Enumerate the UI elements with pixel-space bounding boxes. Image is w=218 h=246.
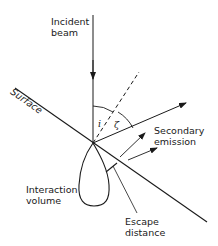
angle-i-label: i	[98, 118, 101, 129]
secondary-emission-label-line2: emission	[154, 136, 204, 147]
interaction-volume-shape	[79, 143, 109, 206]
interaction-volume-label-line1: Interaction	[26, 184, 78, 195]
angle-zeta-arc	[118, 112, 133, 128]
interaction-volume-label: Interaction volume	[26, 184, 78, 206]
surface-normal-dashed	[93, 72, 139, 143]
secondary-emission-label: Secondary emission	[154, 125, 204, 147]
interaction-volume-label-line2: volume	[26, 195, 78, 206]
diagram-canvas	[0, 0, 218, 246]
angle-i-arc	[93, 106, 113, 112]
escape-distance-leader	[113, 166, 137, 213]
escape-distance-label-line2: distance	[125, 227, 165, 238]
angle-zeta-label: ζ	[114, 119, 119, 130]
incident-beam-label-line2: beam	[51, 27, 89, 38]
emission-arrow-small-1	[120, 133, 145, 157]
incident-beam-label: Incident beam	[51, 16, 89, 38]
emission-arrow-small-2	[128, 148, 157, 160]
secondary-emission-label-line1: Secondary	[154, 125, 204, 136]
incident-beam-label-line1: Incident	[51, 16, 89, 27]
escape-distance-label-line1: Escape	[125, 216, 165, 227]
escape-distance-label: Escape distance	[125, 216, 165, 238]
